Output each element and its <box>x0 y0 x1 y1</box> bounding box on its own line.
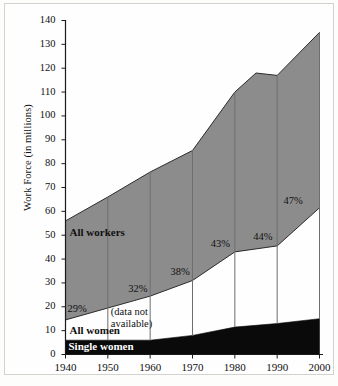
y-tick-label-0: 0 <box>30 349 56 360</box>
y-tick-label-50: 50 <box>30 230 56 241</box>
percent-label-1940: 29% <box>68 304 87 315</box>
x-tick-label-1970: 1970 <box>173 362 213 373</box>
note-line-2: available) <box>111 318 152 330</box>
percent-label-2000: 47% <box>284 196 303 207</box>
chart-frame: Work Force (in millions) 010203040506070… <box>4 3 334 375</box>
y-tick-label-90: 90 <box>30 134 56 145</box>
y-tick-label-20: 20 <box>30 301 56 312</box>
y-tick-label-130: 130 <box>30 39 56 50</box>
percent-label-1970: 38% <box>171 267 190 278</box>
x-tick-label-2000: 2000 <box>300 362 338 373</box>
y-tick-label-110: 110 <box>30 87 56 98</box>
single-women-label: Single women <box>69 341 134 352</box>
chart-figure: Work Force (in millions) 010203040506070… <box>0 0 338 386</box>
y-tick-label-120: 120 <box>30 63 56 74</box>
y-tick-label-30: 30 <box>30 277 56 288</box>
x-tick-label-1940: 1940 <box>46 362 86 373</box>
percent-label-1960: 32% <box>128 284 147 295</box>
x-tick-label-1980: 1980 <box>215 362 255 373</box>
percent-label-1980: 43% <box>211 239 230 250</box>
y-tick-label-60: 60 <box>30 206 56 217</box>
y-tick-label-70: 70 <box>30 182 56 193</box>
x-tick-label-1950: 1950 <box>88 362 128 373</box>
x-tick-label-1960: 1960 <box>130 362 170 373</box>
percent-label-1990: 44% <box>253 232 272 243</box>
x-tick-label-1990: 1990 <box>257 362 297 373</box>
y-tick-label-140: 140 <box>30 15 56 26</box>
y-tick-label-10: 10 <box>30 325 56 336</box>
y-tick-label-100: 100 <box>30 110 56 121</box>
data-not-available-note: (data not available) <box>111 306 152 330</box>
note-line-1: (data not <box>111 306 152 318</box>
y-tick-label-80: 80 <box>30 158 56 169</box>
all-workers-label: All workers <box>70 227 125 238</box>
y-tick-label-40: 40 <box>30 254 56 265</box>
